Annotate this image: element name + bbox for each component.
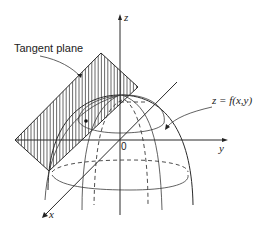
meridian-back-right [125,100,148,205]
plane-hatching [15,50,140,175]
origin-label: 0 [121,141,127,152]
z-axis-arrow-icon [118,14,122,20]
meridian-front [45,96,117,200]
surface-equation-label: z = f(x,y) [211,94,252,107]
tangent-point [84,119,88,123]
tangent-plane-leader [40,56,80,76]
tangent-plane-diagram: Tangent plane z = f(x,y) z y x 0 [0,0,264,235]
x-axis-label: x [48,208,54,220]
tangent-plane-label: Tangent plane [14,42,83,54]
tangent-plane [15,50,140,175]
meridian-left [82,95,120,210]
y-axis-label: y [218,142,224,154]
meridian-right [122,95,162,210]
z-axis-label: z [123,11,129,23]
